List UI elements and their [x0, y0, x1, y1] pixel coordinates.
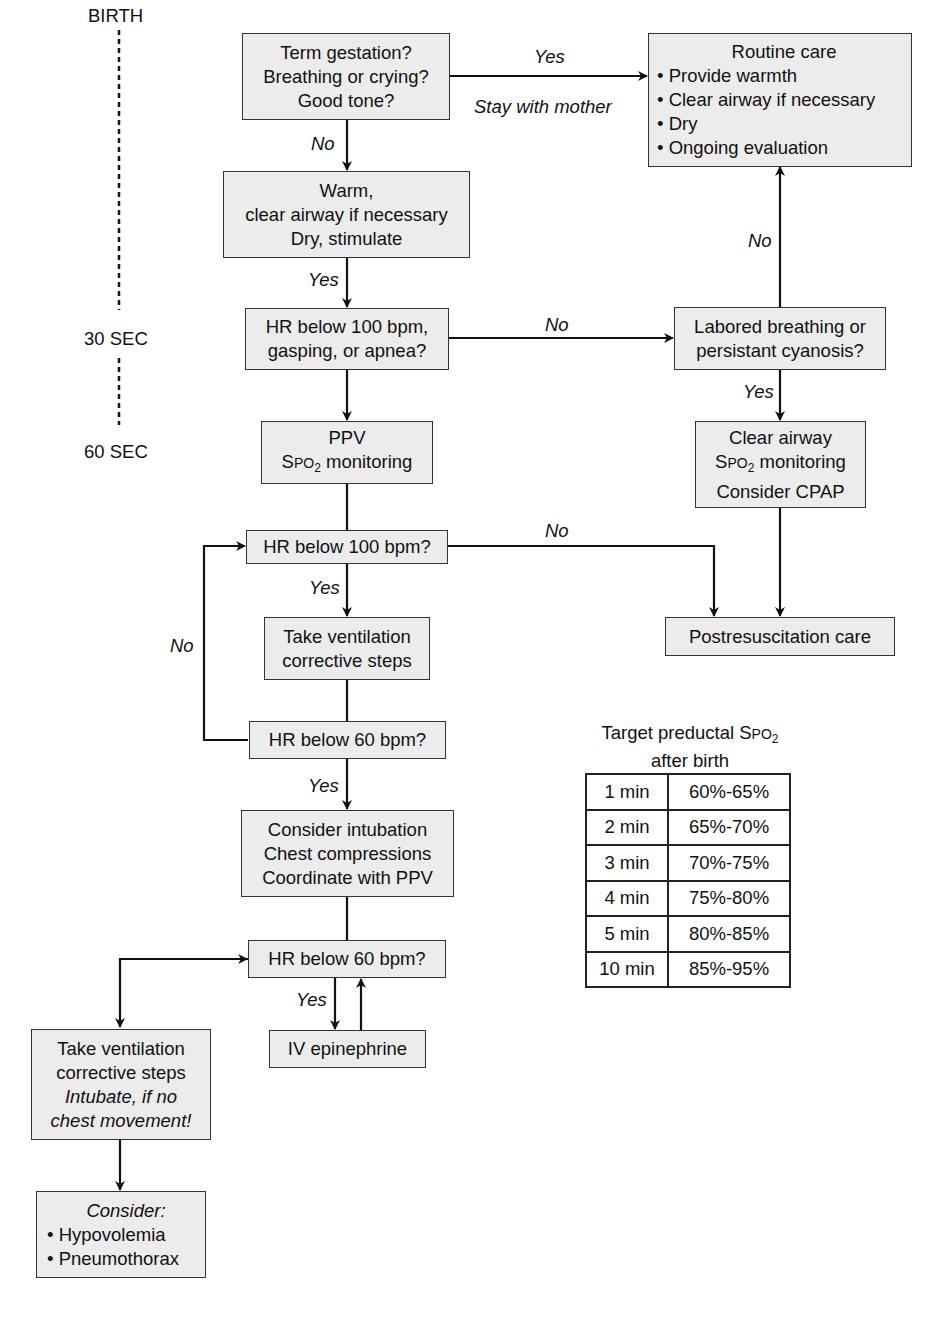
clear-airway-spo2-line: SPO2 monitoring	[715, 450, 846, 480]
intubation-box: Consider intubation Chest compressions C…	[241, 810, 454, 897]
routine-care-title: Routine care	[732, 40, 837, 64]
edge-label-no: No	[545, 520, 569, 542]
consider-item: • Hypovolemia	[47, 1223, 166, 1247]
range-cell: 65%-70%	[668, 810, 790, 846]
edge-label-no: No	[545, 314, 569, 336]
hr-gasping-box: HR below 100 bpm, gasping, or apnea?	[245, 308, 449, 370]
routine-care-box: Routine care • Provide warmth • Clear ai…	[648, 33, 912, 167]
hr-below-100-box: HR below 100 bpm?	[246, 530, 448, 564]
ppv-box: PPV SPO2 monitoring	[261, 421, 433, 484]
clear-airway-box: Clear airway SPO2 monitoring Consider CP…	[695, 421, 866, 508]
hr-gasping-line-1: HR below 100 bpm,	[266, 315, 428, 339]
clear-airway-line-1: Clear airway	[729, 426, 832, 450]
time-cell: 2 min	[586, 810, 668, 846]
range-cell: 80%-85%	[668, 916, 790, 952]
vent2-line-4: chest movement!	[51, 1109, 192, 1133]
edge-label-yes: Yes	[296, 989, 327, 1011]
ventilation-steps-box: Take ventilation corrective steps	[264, 617, 430, 680]
labored-line-2: persistant cyanosis?	[696, 339, 864, 363]
range-cell: 75%-80%	[668, 881, 790, 917]
hr-below-60-box-2: HR below 60 bpm?	[248, 940, 446, 978]
clear-airway-line-3: Consider CPAP	[716, 480, 844, 504]
time-cell: 4 min	[586, 881, 668, 917]
range-cell: 70%-75%	[668, 845, 790, 881]
routine-care-item: • Dry	[657, 112, 697, 136]
timeline-30sec-label: 30 SEC	[84, 328, 148, 350]
spo2-target-table: 1 min60%-65% 2 min65%-70% 3 min70%-75% 4…	[585, 773, 791, 988]
intubation-line-1: Consider intubation	[268, 818, 427, 842]
warm-line-2: clear airway if necessary	[245, 203, 448, 227]
vent-line-2: corrective steps	[282, 649, 412, 673]
edge-label-yes: Yes	[308, 269, 339, 291]
vent2-line-2: corrective steps	[56, 1061, 186, 1085]
table-row: 1 min60%-65%	[586, 774, 790, 810]
labored-breathing-box: Labored breathing or persistant cyanosis…	[674, 307, 886, 370]
table-row: 4 min75%-80%	[586, 881, 790, 917]
routine-care-item: • Ongoing evaluation	[657, 136, 828, 160]
consider-title: Consider:	[86, 1199, 165, 1223]
edge-label-yes: Yes	[743, 381, 774, 403]
routine-care-item: • Clear airway if necessary	[657, 88, 875, 112]
time-cell: 3 min	[586, 845, 668, 881]
hr-gasping-line-2: gasping, or apnea?	[268, 339, 426, 363]
table-row: 2 min65%-70%	[586, 810, 790, 846]
table-row: 5 min80%-85%	[586, 916, 790, 952]
edge-label-no: No	[170, 635, 194, 657]
edge-label-stay-with-mother: Stay with mother	[474, 96, 612, 118]
consider-box: Consider: • Hypovolemia • Pneumothorax	[36, 1191, 206, 1278]
hr-below-60-text-2: HR below 60 bpm?	[268, 947, 425, 971]
postresuscitation-care-box: Postresuscitation care	[665, 617, 895, 656]
iv-epinephrine-text: IV epinephrine	[288, 1037, 407, 1061]
range-cell: 60%-65%	[668, 774, 790, 810]
ppv-spo2-line: SPO2 monitoring	[282, 450, 413, 480]
timeline-birth-label: BIRTH	[88, 5, 143, 27]
edge-label-no: No	[748, 230, 772, 252]
time-cell: 5 min	[586, 916, 668, 952]
edge-label-yes: Yes	[534, 46, 565, 68]
range-cell: 85%-95%	[668, 952, 790, 988]
hr-below-60-text-1: HR below 60 bpm?	[269, 728, 426, 752]
table-row: 3 min70%-75%	[586, 845, 790, 881]
initial-line-1: Term gestation?	[280, 41, 412, 65]
warm-clear-box: Warm, clear airway if necessary Dry, sti…	[223, 171, 470, 258]
edge-label-yes: Yes	[308, 775, 339, 797]
ppv-line-1: PPV	[328, 426, 365, 450]
routine-care-item: • Provide warmth	[657, 64, 797, 88]
hr-below-100-text: HR below 100 bpm?	[263, 535, 431, 559]
ventilation-steps-intubate-box: Take ventilation corrective steps Intuba…	[31, 1029, 211, 1140]
intubation-line-3: Coordinate with PPV	[262, 866, 433, 890]
edge-label-yes: Yes	[309, 577, 340, 599]
consider-item: • Pneumothorax	[47, 1247, 179, 1271]
edge-label-no: No	[311, 133, 335, 155]
initial-assessment-box: Term gestation? Breathing or crying? Goo…	[242, 33, 450, 120]
table-row: 10 min85%-95%	[586, 952, 790, 988]
vent2-line-1: Take ventilation	[57, 1037, 185, 1061]
warm-line-3: Dry, stimulate	[291, 227, 403, 251]
labored-line-1: Labored breathing or	[694, 315, 866, 339]
intubation-line-2: Chest compressions	[264, 842, 432, 866]
spo2-table-caption: Target preductal SPO2 after birth	[570, 722, 810, 772]
vent2-line-3: Intubate, if no	[65, 1085, 177, 1109]
postresuscitation-text: Postresuscitation care	[689, 625, 871, 649]
initial-line-3: Good tone?	[298, 89, 395, 113]
warm-line-1: Warm,	[320, 179, 374, 203]
iv-epinephrine-box: IV epinephrine	[269, 1030, 426, 1068]
timeline-60sec-label: 60 SEC	[84, 441, 148, 463]
initial-line-2: Breathing or crying?	[263, 65, 429, 89]
vent-line-1: Take ventilation	[283, 625, 411, 649]
hr-below-60-box-1: HR below 60 bpm?	[249, 721, 446, 759]
time-cell: 10 min	[586, 952, 668, 988]
time-cell: 1 min	[586, 774, 668, 810]
